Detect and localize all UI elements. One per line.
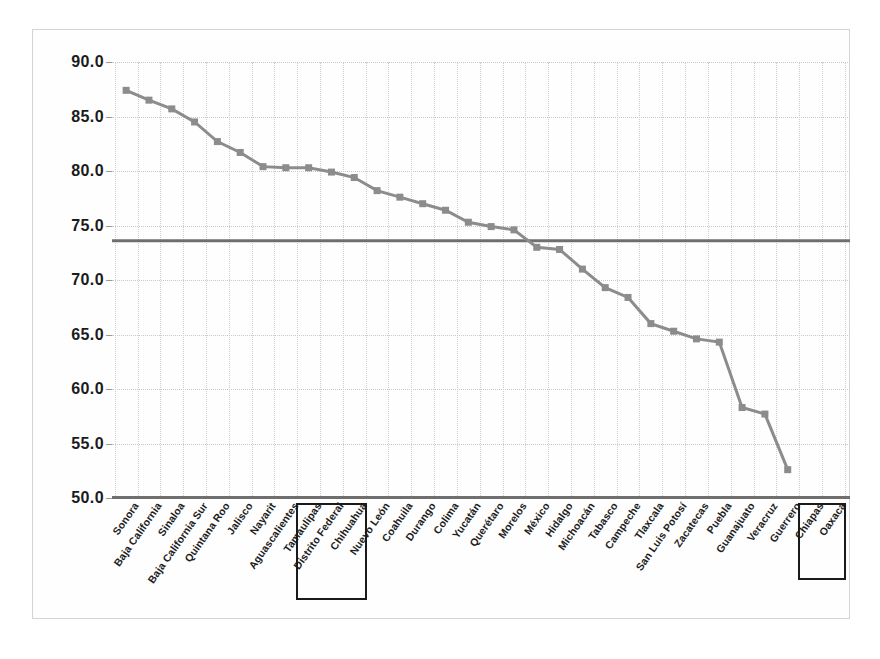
- highlight-box-bottom-group: [798, 503, 846, 580]
- data-point-marker: [145, 97, 152, 104]
- y-axis-tick-label: 70.0: [42, 271, 104, 289]
- data-point-marker: [761, 411, 768, 418]
- y-axis-tick-label: 60.0: [42, 380, 104, 398]
- highlight-box-middle-group: [296, 503, 367, 600]
- y-axis-tick-label: 80.0: [42, 162, 104, 180]
- data-point-marker: [465, 219, 472, 226]
- data-point-marker: [260, 163, 267, 170]
- data-point-marker: [647, 320, 654, 327]
- data-point-marker: [442, 207, 449, 214]
- series-layer: [112, 62, 850, 498]
- data-point-marker: [191, 118, 198, 125]
- data-point-marker: [784, 466, 791, 473]
- data-point-marker: [168, 105, 175, 112]
- data-point-marker: [533, 244, 540, 251]
- data-point-marker: [214, 138, 221, 145]
- data-point-marker: [693, 335, 700, 342]
- data-point-marker: [510, 226, 517, 233]
- data-point-marker: [602, 284, 609, 291]
- data-point-marker: [419, 200, 426, 207]
- data-point-marker: [579, 266, 586, 273]
- data-point-marker: [328, 169, 335, 176]
- y-axis-tick-label: 55.0: [42, 435, 104, 453]
- data-point-marker: [282, 164, 289, 171]
- data-point-marker: [396, 194, 403, 201]
- data-point-marker: [625, 294, 632, 301]
- data-point-marker: [739, 404, 746, 411]
- y-axis-tick-label: 75.0: [42, 217, 104, 235]
- data-point-marker: [716, 339, 723, 346]
- data-point-marker: [123, 87, 130, 94]
- data-point-marker: [488, 223, 495, 230]
- series-line: [126, 90, 788, 469]
- data-point-marker: [556, 246, 563, 253]
- data-point-marker: [237, 149, 244, 156]
- plot-area: [112, 62, 850, 498]
- y-axis-tick-label: 85.0: [42, 108, 104, 126]
- data-point-marker: [351, 174, 358, 181]
- data-point-marker: [670, 328, 677, 335]
- y-axis-tick-label: 65.0: [42, 326, 104, 344]
- y-axis-tick-label: 90.0: [42, 53, 104, 71]
- x-axis-category-labels: SonoraBaja CaliforniaSinaloaBaja Califor…: [112, 500, 850, 630]
- data-point-marker: [305, 164, 312, 171]
- y-axis-tick-label: 50.0: [42, 489, 104, 507]
- figure-canvas: 90.085.080.075.070.065.060.055.050.0 Son…: [0, 0, 880, 659]
- data-point-marker: [374, 187, 381, 194]
